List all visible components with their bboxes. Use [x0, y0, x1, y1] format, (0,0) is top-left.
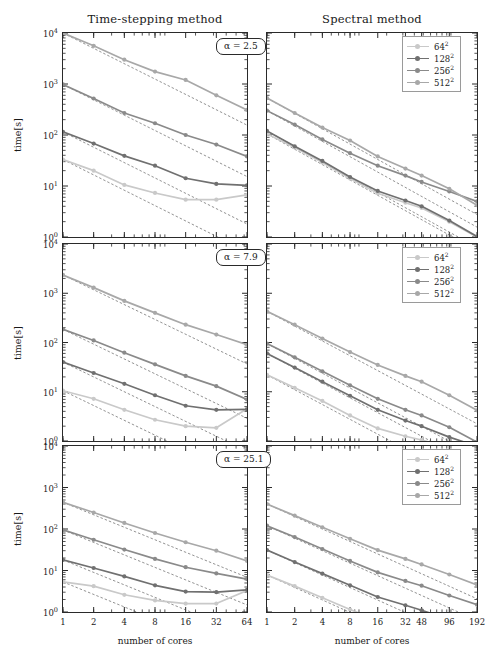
legend-label: 1282: [434, 465, 454, 477]
alpha-annotation-row3: α = 25.1: [216, 451, 271, 468]
ytick-label: 104: [16, 238, 58, 250]
legend-item: 5122: [407, 489, 454, 501]
xtick-label: 1: [49, 617, 77, 627]
xtick-label: 4: [110, 617, 138, 627]
legend-label: 1282: [434, 52, 454, 64]
legend-item: 642: [407, 40, 454, 52]
column-title-right: Spectral method: [266, 12, 478, 26]
ytick-label: 103: [16, 287, 58, 299]
legend-swatch-256: [407, 478, 429, 488]
legend-label: 1282: [434, 263, 454, 275]
legend-item: 642: [407, 251, 454, 263]
legend-swatch-256: [407, 65, 429, 75]
legend-item: 2562: [407, 477, 454, 489]
ytick-label: 103: [16, 78, 58, 90]
xaxis-label-right: number of cores: [266, 636, 478, 646]
alpha-annotation-row2: α = 7.9: [216, 249, 266, 266]
plot-panel-row2-left: [62, 243, 248, 442]
legend-item: 642: [407, 453, 454, 465]
legend-swatch-256: [407, 276, 429, 286]
legend-item: 1282: [407, 52, 454, 64]
legend-label: 642: [434, 453, 449, 465]
xtick-label: 2: [80, 617, 108, 627]
xaxis-label-left: number of cores: [62, 636, 248, 646]
column-title-left: Time-stepping method: [62, 12, 248, 26]
legend-swatch-128: [407, 466, 429, 476]
legend-swatch-512: [407, 490, 429, 500]
legend-item: 1282: [407, 465, 454, 477]
xtick-label: 4: [308, 617, 336, 627]
xtick-label: 8: [336, 617, 364, 627]
yaxis-label: time[s]: [12, 512, 23, 546]
legend-label: 2562: [434, 64, 454, 76]
legend-item: 1282: [407, 263, 454, 275]
ytick-label: 104: [16, 440, 58, 452]
legend-label: 5122: [434, 76, 454, 88]
legend-swatch-64: [407, 252, 429, 262]
legend-swatch-128: [407, 53, 429, 63]
legend-swatch-64: [407, 454, 429, 464]
xtick-label: 32: [202, 617, 230, 627]
ytick-label: 103: [16, 482, 58, 494]
xtick-label: 16: [172, 617, 200, 627]
legend-label: 2562: [434, 477, 454, 489]
alpha-annotation-row1: α = 2.5: [216, 38, 266, 55]
legend-item: 5122: [407, 287, 454, 299]
legend-row3-right: 642128225625122: [402, 449, 461, 505]
legend-swatch-128: [407, 264, 429, 274]
legend-row2-right: 642128225625122: [402, 247, 461, 303]
legend-swatch-512: [407, 288, 429, 298]
yaxis-label: time[s]: [12, 326, 23, 360]
ytick-label: 101: [16, 565, 58, 577]
ytick-label: 101: [16, 386, 58, 398]
xtick-label: 48: [408, 617, 436, 627]
xtick-label: 16: [364, 617, 392, 627]
legend-label: 2562: [434, 275, 454, 287]
legend-label: 5122: [434, 287, 454, 299]
legend-label: 642: [434, 251, 449, 263]
xtick-label: 1: [253, 617, 281, 627]
legend-label: 642: [434, 40, 449, 52]
xtick-label: 2: [281, 617, 309, 627]
ytick-label: 104: [16, 27, 58, 39]
legend-swatch-64: [407, 41, 429, 51]
legend-label: 5122: [434, 489, 454, 501]
plot-panel-row1-left: [62, 32, 248, 238]
legend-item: 2562: [407, 275, 454, 287]
plot-panel-row3-left: [62, 445, 248, 613]
legend-swatch-512: [407, 77, 429, 87]
yaxis-label: time[s]: [12, 118, 23, 152]
xtick-label: 96: [435, 617, 463, 627]
xtick-label: 8: [141, 617, 169, 627]
legend-row1-right: 642128225625122: [402, 36, 461, 92]
legend-item: 2562: [407, 64, 454, 76]
legend-item: 5122: [407, 76, 454, 88]
xtick-label: 192: [463, 617, 487, 627]
ytick-label: 101: [16, 180, 58, 192]
figure-root: Time-stepping method Spectral method 100…: [0, 0, 487, 660]
